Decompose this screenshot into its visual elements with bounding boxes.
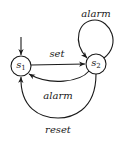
edge-set [31,64,85,65]
state-s2-label: s2 [91,58,101,70]
edge-alarm-back-label: alarm [43,91,72,101]
edge-set-label: set [49,49,64,59]
edge-reset-label: reset [45,125,71,135]
edge-alarm-self-loop [78,20,113,58]
state-s1-subscript: 1 [21,64,25,72]
edge-alarm-self-label: alarm [81,9,110,19]
state-diagram: s1 s2 set alarm alarm reset [0,0,119,143]
edge-alarm-back [29,71,89,81]
state-s2-subscript: 2 [96,62,100,70]
state-s1-label: s1 [16,60,26,72]
